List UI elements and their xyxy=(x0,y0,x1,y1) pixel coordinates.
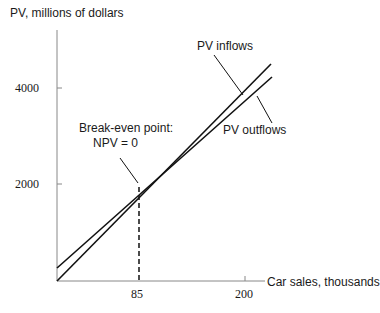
x-tick-label-200: 200 xyxy=(235,287,253,302)
npv-label: NPV = 0 xyxy=(93,136,138,150)
y-axis-label: PV, millions of dollars xyxy=(10,6,124,20)
break-even-label: Break-even point: xyxy=(79,121,173,135)
x-tick-label-85: 85 xyxy=(131,287,143,302)
y-tick-label-4000: 4000 xyxy=(15,81,39,96)
pv-outflows-line xyxy=(57,77,272,268)
y-tick-label-2000: 2000 xyxy=(15,177,39,192)
pv-outflows-label: PV outflows xyxy=(223,123,286,137)
inflows-pointer xyxy=(214,55,243,95)
pv-inflows-label: PV inflows xyxy=(197,39,253,53)
x-axis-label: Car sales, thousands xyxy=(267,275,380,289)
outflows-pointer xyxy=(257,96,272,123)
break-even-pointer xyxy=(120,158,138,183)
